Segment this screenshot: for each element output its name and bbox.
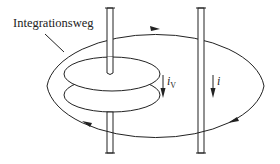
integration-path-label: Integrationsweg (13, 16, 94, 30)
conduction-current-arrow (211, 75, 216, 98)
path-arrow-bottom-right (228, 117, 239, 123)
conduction-current-label: i (217, 74, 220, 88)
displacement-current-arrow (161, 75, 166, 98)
path-arrow-top (150, 26, 160, 31)
conduction-current-symbol: i (217, 74, 220, 88)
capacitor-plates (64, 57, 160, 112)
diagram-canvas: Integrationsweg iV i (0, 0, 280, 164)
label-leader-line (45, 34, 64, 52)
displacement-current-label: iV (167, 74, 176, 90)
displacement-current-subscript: V (170, 81, 176, 90)
